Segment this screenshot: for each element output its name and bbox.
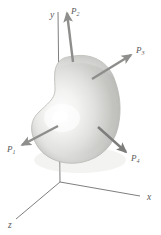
free-body-diagram: y x z P1 P2 P3 P4 [0,0,161,235]
axis-line-z [16,182,60,219]
force-label-P4: P4 [130,153,140,164]
force-label-P2-sub: 2 [77,11,80,17]
force-label-P3: P3 [135,45,145,56]
rigid-body-blob [32,55,126,173]
force-label-P2: P2 [70,6,80,17]
axis-label-x: x [146,192,152,202]
force-label-P1: P1 [6,144,16,155]
axis-label-z: z [7,220,12,230]
blob-highlight-core [52,111,68,123]
figure-container: y x z P1 P2 P3 P4 [0,0,161,235]
force-label-P4-sub: 4 [137,158,140,164]
force-arrow-P2 [67,13,73,62]
axis-label-y: y [49,10,55,20]
axis-line-x [60,182,140,196]
force-label-P1-sub: 1 [13,149,16,155]
force-label-P3-sub: 3 [141,50,145,56]
